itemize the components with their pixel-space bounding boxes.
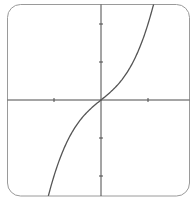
function-plot (0, 0, 191, 215)
